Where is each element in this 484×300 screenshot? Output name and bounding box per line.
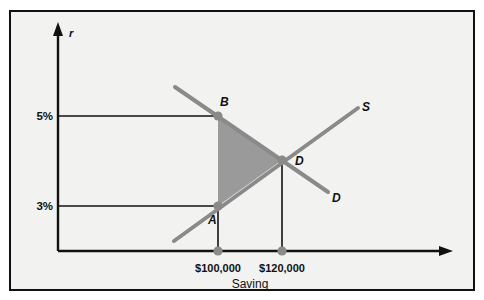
x-axis-arrowhead: [439, 246, 453, 256]
axis-marker-100k: [213, 246, 222, 255]
y-axis-title: r: [69, 28, 73, 39]
point-b-label: B: [220, 96, 229, 108]
point-d-label: D: [295, 155, 304, 167]
chart-panel: r 5% 3% $100,000 $120,000 Saving B A D S…: [9, 10, 475, 291]
point-marker-b: [213, 111, 222, 120]
y-axis-arrowhead: [53, 22, 63, 36]
supply-curve: [174, 108, 358, 241]
axis-marker-120k: [277, 246, 286, 255]
point-marker-d: [277, 155, 286, 164]
x-axis-title: Saving: [210, 278, 290, 290]
chart-plot-area: [11, 12, 475, 291]
demand-curve-label: D: [332, 192, 341, 204]
supply-curve-label: S: [362, 101, 370, 113]
shaded-region-deadweight-loss: [218, 116, 282, 206]
figure-root: r 5% 3% $100,000 $120,000 Saving B A D S…: [0, 0, 484, 300]
y-tick-label-3-percent: 3%: [17, 201, 53, 213]
y-tick-label-5-percent: 5%: [17, 111, 53, 123]
point-marker-a: [213, 201, 222, 210]
x-tick-label-120k: $120,000: [242, 263, 322, 274]
point-a-label: A: [208, 214, 217, 226]
